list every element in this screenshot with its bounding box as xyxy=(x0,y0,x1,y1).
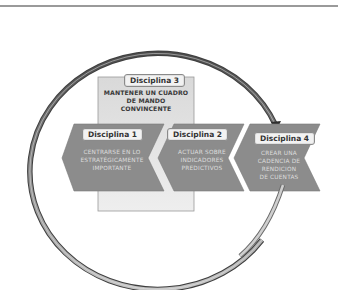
discipline-4-line-1: CREAR UNA xyxy=(244,149,314,157)
discipline-1-text: CENTRARSE EN LO ESTRATÉGICAMENTE IMPORTA… xyxy=(66,148,158,172)
discipline-4-text: CREAR UNA CADENCIA DE RENDICIÓN DE CUENT… xyxy=(244,149,314,181)
discipline-4-line-2: CADENCIA DE xyxy=(244,157,314,165)
discipline-3-line-1: MANTENER UN CUADRO xyxy=(98,89,194,97)
discipline-1-line-3: IMPORTANTE xyxy=(66,164,158,172)
discipline-1-tag: Disciplina 1 xyxy=(82,128,143,141)
discipline-3-tag: Disciplina 3 xyxy=(124,74,185,87)
discipline-4-tag: Disciplina 4 xyxy=(254,132,315,145)
discipline-2-line-1: ACTUAR SOBRE xyxy=(164,148,240,156)
discipline-1-line-2: ESTRATÉGICAMENTE xyxy=(66,156,158,164)
discipline-4-line-3: RENDICIÓN xyxy=(244,165,314,173)
discipline-3-text: MANTENER UN CUADRO DE MANDO CONVINCENTE xyxy=(98,89,194,113)
discipline-2-tag: Disciplina 2 xyxy=(167,128,228,141)
discipline-2-line-3: PREDICTIVOS xyxy=(164,164,240,172)
discipline-1-line-1: CENTRARSE EN LO xyxy=(66,148,158,156)
discipline-2-line-2: INDICADORES xyxy=(164,156,240,164)
discipline-3-line-3: CONVINCENTE xyxy=(98,105,194,113)
discipline-2-text: ACTUAR SOBRE INDICADORES PREDICTIVOS xyxy=(164,148,240,172)
discipline-4-line-4: DE CUENTAS xyxy=(244,173,314,181)
disciplines-diagram xyxy=(0,0,338,290)
discipline-3-line-2: DE MANDO xyxy=(98,97,194,105)
